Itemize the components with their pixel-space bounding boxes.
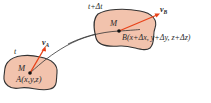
- point-label-b: B(x+Δx, y+Δy, z+Δz): [122, 33, 191, 42]
- velocity-label-va: vA: [42, 38, 50, 48]
- time-label-t: t: [14, 47, 17, 56]
- point-label-a: A(x,y,z): [15, 74, 42, 84]
- particle-label-m-right: M: [109, 18, 118, 28]
- time-label-t-plus-dt: t+Δt: [88, 2, 103, 11]
- fluid-particle-motion-diagram: t M A(x,y,z) vA t+Δt M B(x+Δx, y+Δy, z+Δ…: [0, 0, 211, 103]
- point-b: [117, 29, 121, 33]
- velocity-label-vb: vB: [160, 5, 168, 15]
- particle-label-m-left: M: [17, 63, 26, 73]
- fluid-region-at-t-plus-dt: [94, 9, 156, 49]
